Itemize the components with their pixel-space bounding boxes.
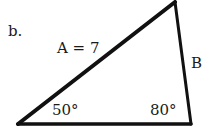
triangle-figure: b. A = 7 B 50° 80° bbox=[0, 0, 204, 130]
side-a-label: A = 7 bbox=[57, 41, 99, 56]
side-b-label: B bbox=[191, 56, 202, 71]
problem-label: b. bbox=[8, 24, 22, 39]
angle-bottom-right-label: 80° bbox=[150, 103, 177, 118]
side-b bbox=[175, 2, 191, 124]
angle-bottom-left-label: 50° bbox=[52, 103, 79, 118]
